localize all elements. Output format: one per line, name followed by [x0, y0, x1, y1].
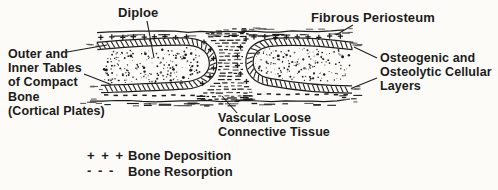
diploe-stipple [268, 76, 269, 77]
diploe-stipple [266, 67, 267, 68]
diploe-stipple [260, 66, 261, 67]
diploe-stipple [118, 60, 119, 61]
diploe-stipple [187, 61, 188, 62]
diploe-stipple [125, 72, 126, 73]
diploe-stipple [289, 76, 291, 78]
diploe-stipple [144, 51, 145, 52]
diploe-stipple [191, 66, 193, 68]
diploe-stipple [306, 69, 307, 70]
diploe-stipple [274, 69, 275, 70]
diploe-stipple [129, 55, 132, 58]
diploe-stipple [313, 72, 315, 74]
diploe-stipple [146, 77, 147, 78]
diploe-stipple [197, 61, 199, 63]
diploe-stipple [302, 49, 303, 50]
diploe-stipple [299, 48, 300, 49]
diploe-stipple [337, 73, 338, 74]
minus-symbols: - - - [87, 163, 128, 178]
diploe-stipple [277, 54, 280, 57]
diploe-stipple [116, 52, 118, 54]
legend-item-resorption: - - - Bone Resorption [87, 164, 233, 180]
diploe-stipple [182, 76, 185, 79]
diploe-stipple [307, 49, 309, 51]
diploe-stipple [255, 63, 256, 64]
diploe-stipple [191, 69, 192, 70]
label-diploe: Diploe [118, 6, 158, 20]
diploe-stipple [195, 55, 196, 56]
diploe-stipple [176, 53, 177, 54]
legend: + + + Bone Deposition - - - Bone Resorpt… [87, 148, 233, 179]
diploe-stipple [170, 72, 172, 74]
diploe-stipple [298, 58, 299, 59]
diploe-stipple [162, 75, 164, 77]
diploe-stipple [190, 52, 192, 54]
diploe-stipple [141, 53, 142, 54]
diploe-stipple [196, 69, 198, 71]
diploe-stipple [260, 59, 262, 61]
label-line: Osteogenic and [380, 52, 492, 66]
diploe-stipple [163, 68, 164, 69]
diploe-stipple [258, 52, 260, 54]
diploe-stipple [142, 66, 144, 68]
diploe-stipple [289, 55, 291, 57]
diploe-stipple [173, 55, 174, 56]
diploe-stipple [263, 53, 264, 54]
legend-item-deposition: + + + Bone Deposition [87, 148, 233, 164]
diploe-stipple [302, 58, 304, 60]
diploe-stipple [175, 64, 177, 66]
diploe-stipple [256, 53, 258, 55]
diploe-stipple [129, 72, 130, 73]
diploe-stipple [288, 50, 290, 52]
diploe-stipple [144, 75, 145, 76]
diploe-stipple [132, 76, 134, 78]
diploe-stipple [326, 61, 327, 62]
diploe-stipple [182, 67, 183, 68]
diploe-stipple [317, 61, 319, 63]
diploe-stipple [338, 62, 340, 64]
diploe-stipple [321, 52, 323, 54]
diploe-stipple [340, 78, 341, 79]
diploe-stipple [291, 79, 293, 81]
diploe-stipple [169, 54, 170, 55]
diploe-stipple [322, 58, 324, 60]
diploe-stipple [267, 63, 268, 64]
diploe-stipple [174, 78, 175, 79]
diploe-stipple [124, 80, 126, 82]
diploe-stipple [258, 69, 260, 71]
diploe-stipple [162, 58, 164, 60]
diploe-stipple [308, 53, 309, 54]
diploe-stipple [141, 77, 142, 78]
diploe-stipple [170, 60, 171, 61]
leader-cellular-inner [351, 78, 377, 89]
label-line: Bone [8, 90, 105, 104]
diploe-stipple [161, 62, 162, 63]
compact-table-band [250, 42, 354, 90]
label-line: Osteolytic Cellular [380, 66, 492, 80]
diploe-stipple [266, 54, 267, 55]
diploe-stipple [148, 79, 149, 80]
label-line: Inner Tables [8, 61, 105, 75]
diploe-stipple [179, 53, 180, 54]
diploe-stipple [338, 53, 339, 54]
diploe-stipple [183, 51, 185, 53]
diploe-stipple [167, 70, 169, 72]
diploe-stipple [106, 72, 108, 74]
diploe-stipple [315, 62, 316, 63]
diploe-stipple [270, 64, 271, 65]
diploe-stipple [335, 63, 337, 65]
diploe-stipple [116, 57, 117, 58]
diploe-stipple [107, 58, 108, 59]
diploe-stipple [340, 54, 341, 55]
diploe-stipple [145, 74, 146, 75]
diploe-stipple [263, 51, 264, 52]
diploe-stipple [136, 79, 137, 80]
diploe-stipple [310, 65, 311, 66]
diploe-stipple [163, 79, 164, 80]
diploe-stipple [127, 64, 128, 65]
bottom-line [90, 99, 350, 102]
diploe-stipple [294, 52, 296, 54]
diploe-stipple [150, 73, 152, 75]
diploe-stipple [269, 48, 270, 49]
diploe-stipple [323, 73, 325, 75]
diploe-stipple [289, 71, 290, 72]
